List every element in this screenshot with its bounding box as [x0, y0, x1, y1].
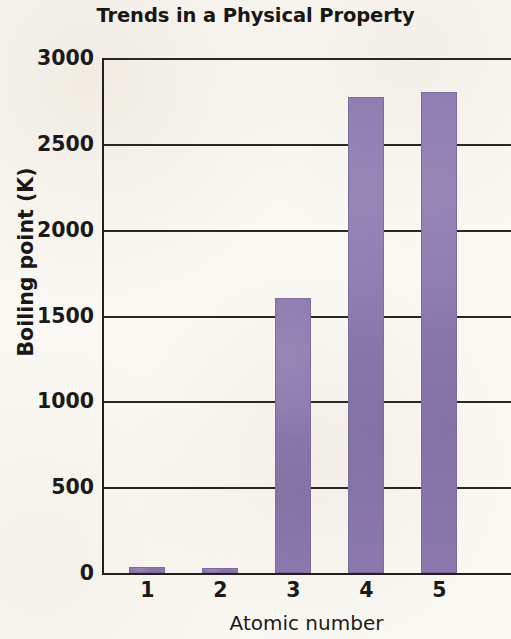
x-tick-label: 3	[268, 578, 318, 602]
y-tick-label: 0	[10, 561, 102, 585]
chart-figure: Trends in a Physical Property Boiling po…	[0, 0, 511, 639]
x-axis-line	[102, 573, 511, 575]
y-axis-tick-labels: 050010001500200025003000	[0, 58, 102, 573]
x-tick-label: 4	[341, 578, 391, 602]
x-tick-label: 1	[122, 578, 172, 602]
bar	[421, 92, 457, 573]
y-tick-label: 2000	[10, 218, 102, 242]
y-tick-label: 500	[10, 475, 102, 499]
x-tick-label: 5	[414, 578, 464, 602]
bar	[275, 298, 311, 573]
x-axis-tick-labels: 12345	[102, 578, 511, 610]
y-tick-label: 1000	[10, 389, 102, 413]
bar	[348, 97, 384, 573]
y-axis-line	[102, 58, 104, 575]
y-tick-label: 3000	[10, 46, 102, 70]
y-tick-label: 1500	[10, 304, 102, 328]
x-tick-label: 2	[195, 578, 245, 602]
chart-title: Trends in a Physical Property	[0, 4, 511, 27]
y-tick-label: 2500	[10, 132, 102, 156]
x-axis-label: Atomic number	[102, 611, 511, 635]
plot-area	[102, 58, 511, 573]
gridline	[102, 58, 511, 60]
